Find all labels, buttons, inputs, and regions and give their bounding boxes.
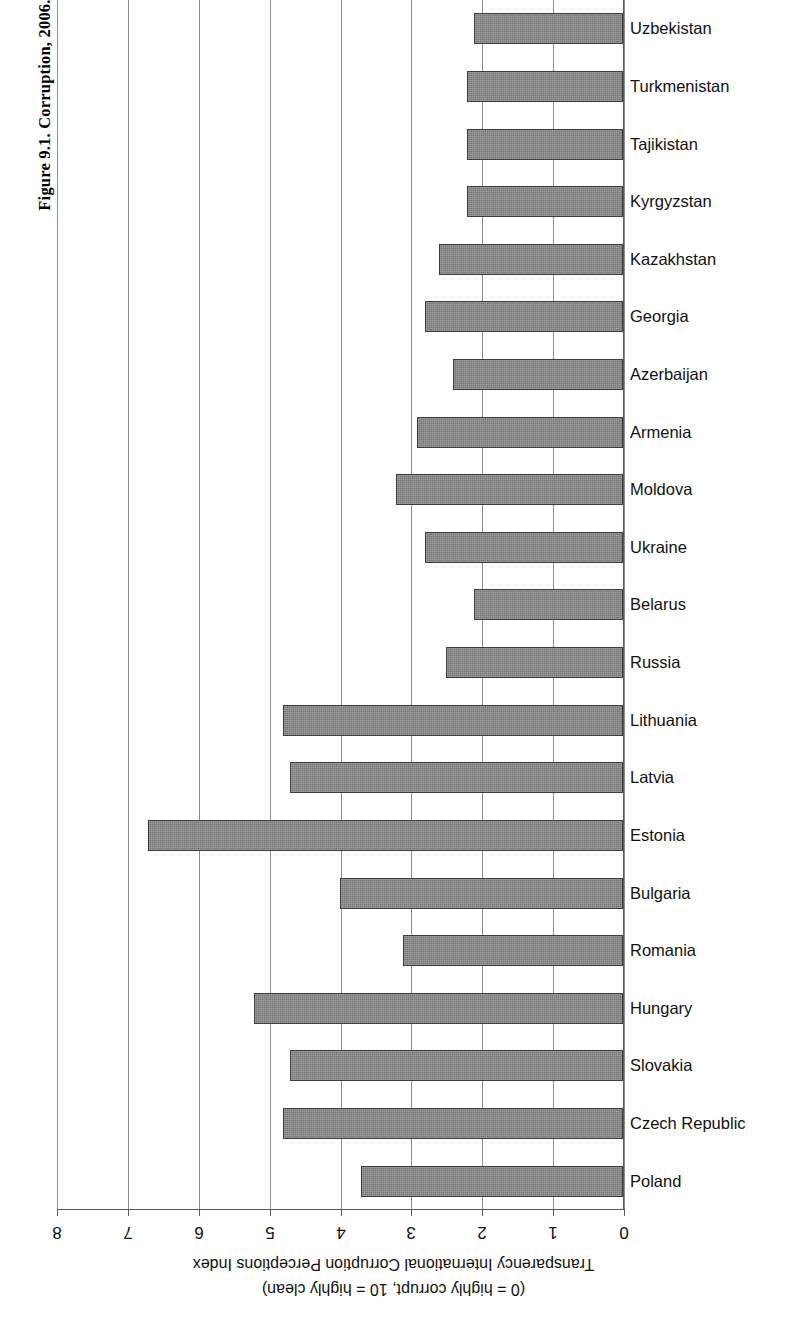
axis-tick-7	[128, 1209, 129, 1216]
axis-tick-6	[199, 1209, 200, 1216]
axis-title-line-1: (0 = highly corrupt, 10 = highly clean)	[0, 1277, 787, 1302]
bar-azerbaijan[interactable]	[453, 359, 623, 390]
value-axis-title: (0 = highly corrupt, 10 = highly clean) …	[0, 1252, 787, 1302]
bar-bulgaria[interactable]	[340, 878, 624, 909]
category-label-lithuania: Lithuania	[630, 705, 697, 736]
category-label-russia: Russia	[630, 647, 680, 678]
category-label-armenia: Armenia	[630, 417, 691, 448]
category-label-romania: Romania	[630, 935, 696, 966]
bar-ukraine[interactable]	[425, 532, 623, 563]
axis-tick-label-6: 6	[184, 1222, 214, 1242]
axis-title-line-2: Transparency International Corruption Pe…	[0, 1252, 787, 1277]
bar-row: Bulgaria	[57, 864, 623, 922]
category-label-turkmenistan: Turkmenistan	[630, 71, 729, 102]
axis-tick-label-2: 2	[467, 1222, 497, 1242]
bar-row: Tajikistan	[57, 115, 623, 173]
bar-tajikistan[interactable]	[467, 129, 623, 160]
bar-row: Latvia	[57, 749, 623, 807]
bar-lithuania[interactable]	[283, 705, 623, 736]
bar-row: Azerbaijan	[57, 346, 623, 404]
bar-uzbekistan[interactable]	[474, 13, 623, 44]
bar-row: Moldova	[57, 461, 623, 519]
category-label-kyrgyzstan: Kyrgyzstan	[630, 186, 712, 217]
bar-row: Lithuania	[57, 691, 623, 749]
category-label-belarus: Belarus	[630, 589, 686, 620]
bar-hungary[interactable]	[254, 993, 623, 1024]
bar-row: Turkmenistan	[57, 58, 623, 116]
category-label-moldova: Moldova	[630, 474, 692, 505]
bar-row: Kazakhstan	[57, 230, 623, 288]
category-label-bulgaria: Bulgaria	[630, 878, 691, 909]
bar-moldova[interactable]	[396, 474, 623, 505]
bar-row: Romania	[57, 922, 623, 980]
axis-tick-label-7: 7	[113, 1222, 143, 1242]
bar-row: Georgia	[57, 288, 623, 346]
figure-container: Figure 9.1. Corruption, 2006. Uzbekistan…	[0, 0, 787, 1317]
category-label-azerbaijan: Azerbaijan	[630, 359, 708, 390]
bar-slovakia[interactable]	[290, 1050, 623, 1081]
bar-row: Kyrgyzstan	[57, 173, 623, 231]
bar-estonia[interactable]	[148, 820, 623, 851]
axis-tick-5	[270, 1209, 271, 1216]
bar-row: Uzbekistan	[57, 0, 623, 58]
category-label-kazakhstan: Kazakhstan	[630, 244, 716, 275]
axis-tick-3	[411, 1209, 412, 1216]
category-label-poland: Poland	[630, 1166, 681, 1197]
category-label-estonia: Estonia	[630, 820, 685, 851]
chart-plot-area: UzbekistanTurkmenistanTajikistanKyrgyzst…	[57, 0, 624, 1210]
bar-row: Czech Republic	[57, 1095, 623, 1153]
bar-row: Slovakia	[57, 1037, 623, 1095]
bar-romania[interactable]	[403, 935, 623, 966]
bar-belarus[interactable]	[474, 589, 623, 620]
axis-tick-8	[57, 1209, 58, 1216]
category-label-tajikistan: Tajikistan	[630, 129, 698, 160]
bar-row: Estonia	[57, 807, 623, 865]
axis-tick-4	[341, 1209, 342, 1216]
bar-armenia[interactable]	[417, 417, 623, 448]
bar-row: Hungary	[57, 980, 623, 1038]
axis-tick-label-0: 0	[609, 1222, 639, 1242]
category-label-latvia: Latvia	[630, 762, 674, 793]
bar-russia[interactable]	[446, 647, 623, 678]
bar-kyrgyzstan[interactable]	[467, 186, 623, 217]
bar-latvia[interactable]	[290, 762, 623, 793]
axis-tick-label-4: 4	[326, 1222, 356, 1242]
bar-row: Armenia	[57, 403, 623, 461]
bar-georgia[interactable]	[425, 301, 623, 332]
bar-czech-republic[interactable]	[283, 1108, 623, 1139]
gridline-0	[624, 0, 625, 1209]
axis-tick-1	[553, 1209, 554, 1216]
category-label-georgia: Georgia	[630, 301, 689, 332]
axis-tick-2	[482, 1209, 483, 1216]
category-label-slovakia: Slovakia	[630, 1050, 692, 1081]
axis-tick-label-3: 3	[396, 1222, 426, 1242]
category-label-czech-republic: Czech Republic	[630, 1108, 746, 1139]
axis-tick-label-8: 8	[42, 1222, 72, 1242]
bar-turkmenistan[interactable]	[467, 71, 623, 102]
axis-tick-label-1: 1	[538, 1222, 568, 1242]
figure-title: Figure 9.1. Corruption, 2006.	[35, 0, 55, 235]
bar-row: Russia	[57, 634, 623, 692]
bar-row: Ukraine	[57, 519, 623, 577]
category-label-ukraine: Ukraine	[630, 532, 687, 563]
bar-poland[interactable]	[361, 1166, 623, 1197]
category-label-uzbekistan: Uzbekistan	[630, 13, 712, 44]
axis-tick-label-5: 5	[255, 1222, 285, 1242]
bar-row: Belarus	[57, 576, 623, 634]
bar-kazakhstan[interactable]	[439, 244, 623, 275]
bar-row: Poland	[57, 1152, 623, 1210]
category-label-hungary: Hungary	[630, 993, 692, 1024]
axis-tick-0	[624, 1209, 625, 1216]
